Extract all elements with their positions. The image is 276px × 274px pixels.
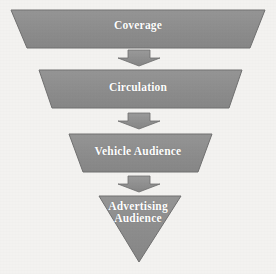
connector-arrow-3 [118,176,160,192]
funnel-label-vehicle-audience: Vehicle Audience [0,145,276,157]
funnel-label-circulation: Circulation [0,81,276,93]
funnel-diagram: Coverage Circulation Vehicle Audience Ad… [0,0,276,274]
connector-arrow-1 [118,50,160,66]
funnel-label-coverage: Coverage [0,19,276,31]
funnel-shapes [0,0,276,274]
funnel-label-advertising-audience: Advertising Audience [0,200,276,224]
connector-arrow-2 [118,113,160,129]
